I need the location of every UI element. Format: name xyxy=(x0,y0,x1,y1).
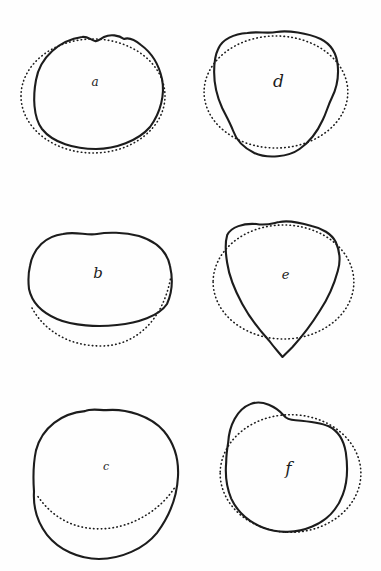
panel-f-drawing: f xyxy=(190,380,381,571)
panel-d-drawing: d xyxy=(190,0,381,190)
dotted-outline-b xyxy=(32,276,171,346)
solid-outline-a xyxy=(34,35,163,149)
dotted-outline-a xyxy=(21,39,165,153)
panel-d: d xyxy=(190,0,381,190)
figure-page: a d b e c f xyxy=(0,0,381,571)
panel-label-f: f xyxy=(283,458,294,478)
solid-outline-e xyxy=(226,221,340,357)
panel-label-a: a xyxy=(91,75,98,89)
dotted-outline-c xyxy=(38,486,176,529)
panel-c-drawing: c xyxy=(0,380,190,571)
panel-label-b: b xyxy=(93,264,103,282)
dotted-outline-e xyxy=(213,225,354,339)
panel-b: b xyxy=(0,190,190,380)
solid-outline-c xyxy=(33,410,178,559)
panel-label-e: e xyxy=(282,267,290,282)
panel-a-drawing: a xyxy=(0,0,190,190)
panel-c: c xyxy=(0,380,190,571)
panel-e-drawing: e xyxy=(190,190,381,380)
panel-label-c: c xyxy=(103,460,109,473)
panel-a: a xyxy=(0,0,190,190)
panel-label-d: d xyxy=(273,71,284,91)
dotted-outline-d xyxy=(204,36,348,148)
solid-outline-d xyxy=(214,31,338,156)
panel-f: f xyxy=(190,380,381,571)
panel-b-drawing: b xyxy=(0,190,190,380)
panel-e: e xyxy=(190,190,381,380)
